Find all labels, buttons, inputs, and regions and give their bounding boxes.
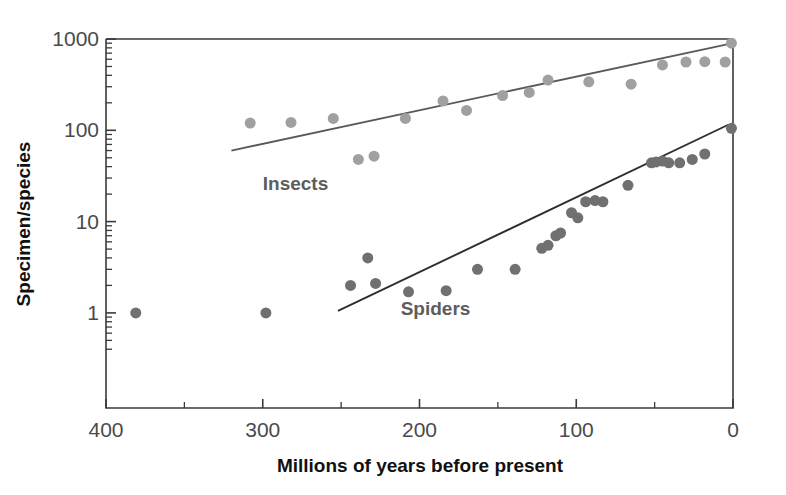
data-point-spiders xyxy=(543,240,554,251)
data-point-insects xyxy=(285,117,296,128)
scatter-plot-canvas: 4003002001000 1101001000 InsectsSpiders … xyxy=(0,0,786,495)
data-point-spiders xyxy=(580,196,591,207)
data-point-insects xyxy=(680,56,691,67)
data-point-spiders xyxy=(572,212,583,223)
y-tick-label: 1 xyxy=(87,301,99,324)
data-point-insects xyxy=(497,90,508,101)
data-point-spiders xyxy=(260,307,271,318)
data-point-insects xyxy=(245,118,256,129)
data-point-insects xyxy=(369,151,380,162)
data-point-spiders xyxy=(403,286,414,297)
y-axis-ticks xyxy=(106,39,116,349)
data-point-spiders xyxy=(597,196,608,207)
data-point-insects xyxy=(400,113,411,124)
data-point-insects xyxy=(438,95,449,106)
data-point-insects xyxy=(328,113,339,124)
series-label-insects: Insects xyxy=(263,173,328,194)
data-point-spiders xyxy=(555,228,566,239)
y-axis-tick-labels: 1101001000 xyxy=(52,27,99,324)
axis-border xyxy=(106,39,733,408)
data-point-spiders xyxy=(663,157,674,168)
data-points xyxy=(130,38,737,319)
y-tick-label: 10 xyxy=(76,210,99,233)
data-point-insects xyxy=(720,56,731,67)
data-point-spiders xyxy=(510,264,521,275)
trend-line-spiders xyxy=(338,125,728,311)
data-point-insects xyxy=(524,87,535,98)
data-point-spiders xyxy=(622,180,633,191)
data-point-spiders xyxy=(345,280,356,291)
data-point-insects xyxy=(543,75,554,86)
x-tick-label: 300 xyxy=(245,418,280,441)
data-point-spiders xyxy=(472,264,483,275)
series-label-spiders: Spiders xyxy=(401,298,471,319)
chart-figure: 4003002001000 1101001000 InsectsSpiders … xyxy=(0,0,786,495)
data-point-spiders xyxy=(726,123,737,134)
data-point-insects xyxy=(657,59,668,70)
data-point-insects xyxy=(353,154,364,165)
x-axis-title: Millions of years before present xyxy=(277,455,564,476)
data-point-insects xyxy=(699,56,710,67)
data-point-insects xyxy=(461,105,472,116)
x-tick-label: 400 xyxy=(88,418,123,441)
data-point-spiders xyxy=(699,149,710,160)
y-axis-title: Specimen/species xyxy=(13,142,34,307)
y-tick-label: 1000 xyxy=(52,27,99,50)
x-tick-label: 0 xyxy=(727,418,739,441)
x-axis-tick-labels: 4003002001000 xyxy=(88,418,738,441)
data-point-spiders xyxy=(674,157,685,168)
data-point-spiders xyxy=(687,154,698,165)
data-point-spiders xyxy=(130,307,141,318)
plot-frame xyxy=(106,39,733,408)
data-point-spiders xyxy=(362,252,373,263)
data-point-spiders xyxy=(441,285,452,296)
y-tick-label: 100 xyxy=(64,118,99,141)
data-point-insects xyxy=(626,79,637,90)
data-point-spiders xyxy=(370,278,381,289)
trend-line-insects xyxy=(231,44,728,150)
x-axis-ticks xyxy=(106,399,733,408)
x-tick-label: 200 xyxy=(402,418,437,441)
x-tick-label: 100 xyxy=(559,418,594,441)
data-point-insects xyxy=(583,76,594,87)
data-point-insects xyxy=(726,38,737,49)
